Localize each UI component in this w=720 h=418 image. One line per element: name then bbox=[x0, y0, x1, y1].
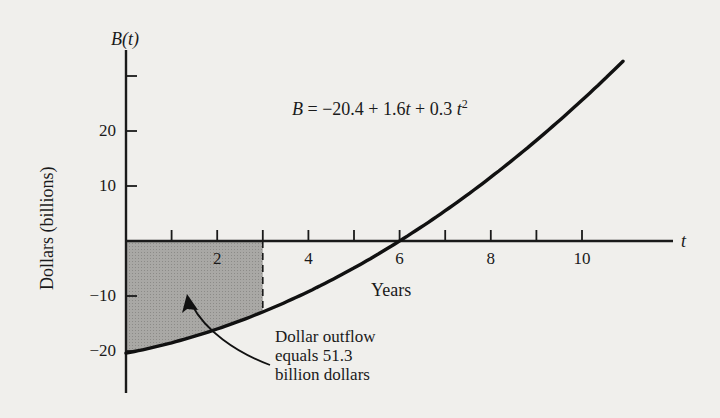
equation-label: B = −20.4 + 1.6t + 0.3 t2 bbox=[292, 98, 468, 118]
x-tick-label: 2 bbox=[202, 250, 232, 267]
x-ticks bbox=[172, 230, 582, 241]
annotation-line: equals 51.3 bbox=[275, 346, 376, 365]
equation-part: + 0.3 bbox=[410, 99, 456, 119]
x-tick-label: 4 bbox=[293, 250, 323, 267]
y-tick-label: −20 bbox=[66, 342, 116, 359]
y-tick-label: 20 bbox=[66, 122, 116, 139]
y-tick-label: 10 bbox=[66, 177, 116, 194]
equation-lhs: B bbox=[292, 99, 303, 119]
annotation-line: billion dollars bbox=[275, 365, 376, 384]
y-axis-symbol: B(t) bbox=[111, 30, 139, 48]
annotation-line: Dollar outflow bbox=[275, 327, 376, 346]
annotation-text: Dollar outflow equals 51.3 billion dolla… bbox=[275, 327, 376, 384]
equation-exponent: 2 bbox=[462, 97, 468, 111]
x-axis-label: Years bbox=[371, 281, 411, 299]
x-axis-symbol: t bbox=[681, 232, 686, 250]
x-tick-label: 6 bbox=[385, 250, 415, 267]
y-tick-label: −10 bbox=[66, 287, 116, 304]
y-axis-label: Dollars (billions) bbox=[38, 167, 56, 291]
equation-part: = −20.4 + 1.6 bbox=[303, 99, 405, 119]
x-tick-label: 10 bbox=[567, 250, 597, 267]
x-tick-label: 8 bbox=[476, 250, 506, 267]
